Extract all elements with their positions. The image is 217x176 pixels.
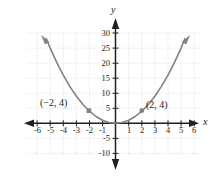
y-tick-minus-5: -5 bbox=[93, 134, 110, 143]
x-tick-6: 6 bbox=[188, 126, 200, 135]
x-tick-minus-5: -5 bbox=[44, 126, 57, 135]
y-tick-30: 30 bbox=[93, 29, 110, 38]
marker-point-left bbox=[87, 108, 92, 113]
x-tick-minus-6: -6 bbox=[31, 126, 44, 135]
y-axis-arrow-up bbox=[112, 18, 119, 29]
grid-lines bbox=[27, 33, 200, 155]
y-axis-arrow-down bbox=[112, 159, 119, 170]
x-tick-minus-1: -1 bbox=[96, 126, 109, 135]
y-tick-5: 5 bbox=[93, 104, 110, 113]
y-tick-10: 10 bbox=[93, 89, 110, 98]
marker-point-right bbox=[139, 108, 144, 113]
x-axis-label: x bbox=[203, 117, 207, 127]
y-tick-20: 20 bbox=[93, 59, 110, 68]
y-tick-minus-10: -10 bbox=[91, 149, 110, 158]
y-axis-label: y bbox=[111, 5, 115, 15]
annotation-point-right: (2, 4) bbox=[146, 100, 168, 110]
x-tick-minus-4: -4 bbox=[57, 126, 70, 135]
x-tick-2: 2 bbox=[136, 126, 148, 135]
x-tick-3: 3 bbox=[149, 126, 161, 135]
x-tick-1: 1 bbox=[123, 126, 135, 135]
x-tick-minus-3: -3 bbox=[70, 126, 83, 135]
x-tick-4: 4 bbox=[162, 126, 174, 135]
x-tick-minus-2: -2 bbox=[83, 126, 96, 135]
y-axis bbox=[112, 18, 119, 170]
x-tick-5: 5 bbox=[175, 126, 187, 135]
parabola-graph-figure: 30 25 20 15 10 5 -5 -10 -6 -5 -4 -3 -2 -… bbox=[0, 0, 217, 176]
annotation-point-left: (−2, 4) bbox=[40, 98, 67, 108]
y-tick-15: 15 bbox=[93, 74, 110, 83]
y-tick-25: 25 bbox=[93, 44, 110, 53]
